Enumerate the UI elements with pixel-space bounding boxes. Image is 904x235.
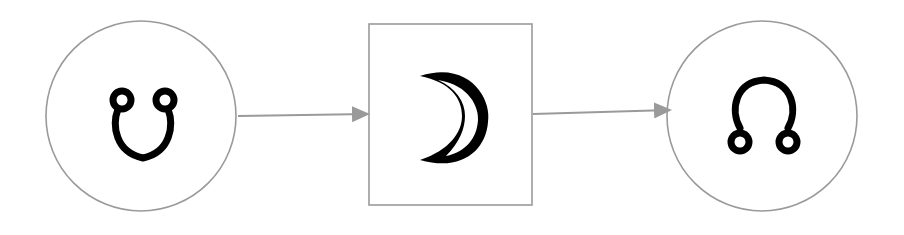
flow-diagram xyxy=(0,0,904,235)
edge-moon-to-ascending xyxy=(533,110,670,114)
node-moon xyxy=(369,24,532,205)
node-descending xyxy=(46,21,236,211)
node-ascending xyxy=(667,21,857,211)
node-circle-left xyxy=(46,21,236,211)
edge-descending-to-moon xyxy=(238,114,368,116)
node-circle-right xyxy=(667,21,857,211)
node-box-center xyxy=(369,24,532,205)
